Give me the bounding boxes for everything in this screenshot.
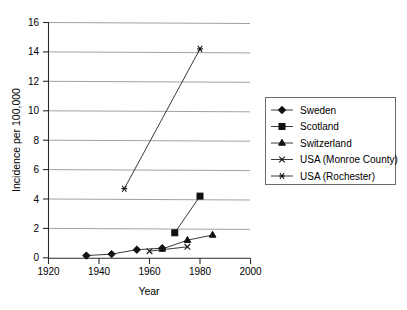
marker-asterisk <box>197 46 203 52</box>
gridline-16 <box>48 23 250 24</box>
y-tick-label-0: 0 <box>33 252 39 263</box>
gridline-6 <box>48 170 250 171</box>
incidence-line-chart: 16 14 12 10 8 6 4 2 0 Incidence per 100,… <box>0 0 407 310</box>
series-segment <box>175 196 200 233</box>
x-tick-label-1940: 1940 <box>88 266 111 277</box>
y-tick-label-4: 4 <box>33 194 39 205</box>
gridline-2 <box>48 228 250 229</box>
y-tick-label-12: 12 <box>28 76 40 87</box>
gridline-8 <box>48 140 250 141</box>
marker-diamond <box>133 246 140 253</box>
gridline-4 <box>48 199 250 200</box>
x-tick-label-1960: 1960 <box>138 266 161 277</box>
x-tick-label-1920: 1920 <box>37 266 60 277</box>
marker-asterisk <box>121 186 127 192</box>
y-axis: 16 14 12 10 8 6 4 2 0 Incidence per 100,… <box>10 17 49 263</box>
y-tick-label-2: 2 <box>33 223 39 234</box>
legend-label: Sweden <box>300 105 336 116</box>
marker-square <box>197 193 203 199</box>
y-tick-label-10: 10 <box>28 105 40 116</box>
legend-label: Switzerland <box>300 138 352 149</box>
marker-square <box>172 230 178 236</box>
gridline-10 <box>48 111 250 112</box>
chart-legend: Sweden Scotland Switzerland USA (Monroe … <box>266 98 398 185</box>
y-tick-label-6: 6 <box>33 164 39 175</box>
y-axis-title: Incidence per 100,000 <box>10 88 22 192</box>
series-segment <box>124 49 200 189</box>
gridline-14 <box>48 52 250 53</box>
gridlines <box>48 23 250 230</box>
series-sweden <box>83 245 166 260</box>
legend-label: USA (Rochester) <box>300 171 375 182</box>
marker-square-icon <box>279 124 285 130</box>
y-tick-label-16: 16 <box>28 17 40 28</box>
x-axis: 1920 1940 1960 1980 2000 Year <box>37 258 262 297</box>
marker-diamond <box>108 250 115 257</box>
x-tick-label-2000: 2000 <box>239 266 262 277</box>
y-tick-label-14: 14 <box>28 46 40 57</box>
x-tick-label-1980: 1980 <box>189 266 212 277</box>
marker-triangle <box>209 231 216 237</box>
gridline-12 <box>48 81 250 82</box>
legend-label: USA (Monroe County) <box>300 154 398 165</box>
x-axis-title: Year <box>138 285 160 297</box>
series-switzerland <box>159 231 216 251</box>
legend-label: Scotland <box>300 121 339 132</box>
y-tick-label-8: 8 <box>33 135 39 146</box>
chart-container: 16 14 12 10 8 6 4 2 0 Incidence per 100,… <box>0 0 407 310</box>
